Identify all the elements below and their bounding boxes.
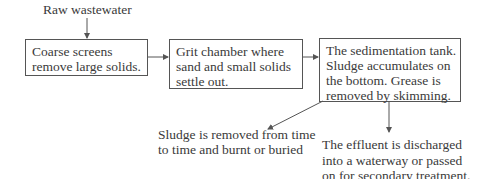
arrow-sludge bbox=[268, 101, 323, 129]
step-grit-chamber: Grit chamber where sand and small solids… bbox=[169, 39, 303, 89]
step-sedimentation-tank: The sedimentation tank. Sludge accumulat… bbox=[319, 38, 461, 102]
sludge-output: Sludge is removed from time to time and … bbox=[158, 127, 315, 157]
effluent-output: The effluent is discharged into a waterw… bbox=[322, 137, 470, 179]
raw-wastewater-label: Raw wastewater bbox=[43, 2, 132, 17]
step-coarse-screens: Coarse screens remove large solids. bbox=[25, 39, 148, 76]
